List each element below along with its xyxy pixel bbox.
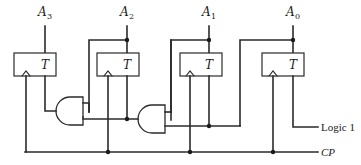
and-gate-1: [56, 97, 83, 125]
svg-text:1: 1: [211, 12, 216, 21]
svg-text:T: T: [123, 58, 132, 72]
wire-and1-input-a: [83, 103, 89, 112]
cp-label: CP: [321, 146, 335, 158]
junction-dot: [106, 150, 110, 154]
svg-text:2: 2: [129, 12, 134, 21]
junction-dot: [125, 38, 129, 42]
output-label-a1: A 1: [201, 5, 216, 21]
svg-text:T: T: [205, 58, 214, 72]
junction-dot: [207, 124, 211, 128]
output-label-a3: A 3: [37, 5, 52, 21]
flip-flop-a2: T: [97, 53, 139, 76]
flip-flop-a0: T: [262, 53, 304, 76]
flip-flop-a3: T: [14, 53, 56, 76]
svg-text:A: A: [201, 5, 211, 19]
junction-dot: [291, 38, 295, 42]
and-gate-2: [138, 105, 165, 133]
svg-text:3: 3: [47, 12, 52, 21]
svg-text:0: 0: [295, 12, 300, 21]
junction-dot: [271, 150, 275, 154]
output-label-a0: A 0: [285, 5, 300, 21]
junction-dot: [207, 38, 211, 42]
svg-text:A: A: [285, 5, 295, 19]
junction-dot: [125, 117, 129, 121]
wire-and1-output-to-t3: [45, 76, 56, 111]
junction-dot: [188, 150, 192, 154]
svg-text:A: A: [119, 5, 129, 19]
svg-text:T: T: [41, 58, 50, 72]
wire-logic1: [293, 76, 318, 127]
output-label-a2: A 2: [119, 5, 134, 21]
svg-text:T: T: [289, 58, 298, 72]
flip-flop-a1: T: [180, 53, 222, 76]
counter-circuit: A 3 A 2 A 1 A 0 T T T T: [0, 0, 361, 165]
logic1-label: Logic 1: [321, 121, 355, 133]
svg-text:A: A: [37, 5, 47, 19]
